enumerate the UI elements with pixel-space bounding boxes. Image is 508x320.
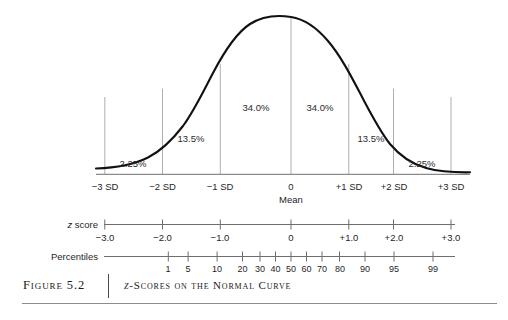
area-label-neg0to1: 34.0% <box>243 103 270 113</box>
area-label-pos2to3: 2.25% <box>409 159 436 169</box>
z-axis-title: z score <box>0 220 98 230</box>
percentile-label-5: 5 <box>185 265 190 274</box>
sd-label-neg2: −2 SD <box>149 182 176 192</box>
figure-title: z-Scores on the Normal Curve <box>124 279 291 291</box>
area-label-pos1to2: 13.5% <box>358 134 385 144</box>
sd-label-neg3: −3 SD <box>92 182 119 192</box>
z-label-neg3: −3.0 <box>96 233 115 243</box>
sd-label-pos2: +2 SD <box>381 182 408 192</box>
sd-label-pos1: +1 SD <box>336 182 363 192</box>
percentile-label-50: 50 <box>286 265 296 274</box>
sd-label-zero: 0 <box>288 182 293 192</box>
percentile-label-20: 20 <box>237 265 247 274</box>
z-axis-title-rest: score <box>72 219 98 230</box>
figure-title-rest: -Scores on the Normal Curve <box>129 279 291 291</box>
caption-divider <box>108 274 109 298</box>
percentile-label-1: 1 <box>165 265 170 274</box>
area-label-neg1to2: 13.5% <box>178 134 205 144</box>
z-label-neg1: −1.0 <box>211 233 230 243</box>
z-label-pos3: +3.0 <box>442 233 461 243</box>
percentile-label-80: 80 <box>335 265 345 274</box>
area-label-neg2to3: 2.25% <box>120 159 147 169</box>
z-label-pos1: +1.0 <box>340 233 359 243</box>
percentile-axis-title: Percentiles <box>0 252 98 262</box>
mean-label: Mean <box>279 195 303 205</box>
z-label-pos2: +2.0 <box>385 233 404 243</box>
area-label-pos0to1: 34.0% <box>307 103 334 113</box>
gridline-group <box>105 18 451 175</box>
sd-label-pos3: +3 SD <box>438 182 465 192</box>
percentile-label-10: 10 <box>212 265 222 274</box>
percentile-label-70: 70 <box>317 265 327 274</box>
percentile-label-40: 40 <box>270 265 280 274</box>
percentile-label-90: 90 <box>360 265 370 274</box>
sd-label-neg1: −1 SD <box>207 182 234 192</box>
figure-container: 2.25% 13.5% 34.0% 34.0% 13.5% 2.25% −3 S… <box>0 0 508 320</box>
figure-number: Figure 5.2 <box>23 278 85 293</box>
percentile-label-99: 99 <box>428 265 438 274</box>
figure-caption: Figure 5.2 z-Scores on the Normal Curve <box>0 278 508 320</box>
z-label-neg2: −2.0 <box>153 233 172 243</box>
percentile-label-30: 30 <box>255 265 265 274</box>
bell-curve-path <box>96 16 470 172</box>
percentile-label-60: 60 <box>301 265 311 274</box>
percentile-label-95: 95 <box>389 265 399 274</box>
bottom-rule <box>22 303 497 304</box>
z-label-zero: 0 <box>288 233 293 243</box>
